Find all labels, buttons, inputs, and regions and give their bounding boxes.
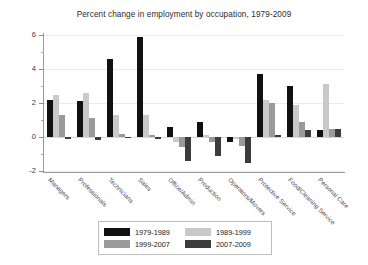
x-axis-tick-label: Professionals <box>77 176 109 208</box>
y-axis-tick-label: 2 <box>20 98 36 107</box>
bar <box>155 137 161 139</box>
y-axis-tick-label: -2 <box>20 166 36 175</box>
bar <box>83 93 89 137</box>
bar <box>293 105 299 137</box>
y-axis-tick-label: 0 <box>20 132 36 141</box>
bar <box>197 122 203 137</box>
legend-label: 1989-1999 <box>216 228 251 237</box>
bar <box>317 130 323 137</box>
legend-label: 1999-2007 <box>135 240 170 249</box>
bar <box>113 115 119 137</box>
bar <box>257 74 263 137</box>
y-axis-tick <box>39 171 44 172</box>
bar <box>65 137 71 139</box>
y-axis-tick <box>39 35 44 36</box>
chart-figure: Percent change in employment by occupati… <box>0 0 368 265</box>
bar <box>143 115 149 137</box>
legend-item-2007-2009: 2007-2009 <box>185 240 266 249</box>
legend-item-1979-1989: 1979-1989 <box>104 228 185 237</box>
legend-item-1999-2007: 1999-2007 <box>104 240 185 249</box>
bar-group <box>167 35 191 171</box>
bar-group <box>287 35 311 171</box>
bar <box>119 134 125 137</box>
bar <box>137 37 143 137</box>
bar-group <box>197 35 221 171</box>
bar <box>149 135 155 137</box>
y-axis-minor-tick <box>41 52 44 53</box>
bar <box>269 103 275 137</box>
y-axis-tick <box>39 69 44 70</box>
x-axis-tick-label: Office/Admin <box>167 176 197 206</box>
bar <box>167 127 173 137</box>
bar <box>227 137 233 142</box>
bar <box>173 137 179 142</box>
bar <box>209 137 215 142</box>
y-axis-tick <box>39 137 44 138</box>
legend-swatch <box>104 240 130 248</box>
bar <box>233 137 239 139</box>
x-axis-line <box>43 172 345 173</box>
bar <box>287 86 293 137</box>
bar <box>329 129 335 138</box>
bar <box>305 130 311 137</box>
legend-swatch <box>185 228 211 236</box>
bar <box>323 84 329 137</box>
bar <box>275 135 281 137</box>
y-axis-minor-tick <box>41 154 44 155</box>
bar <box>89 118 95 137</box>
legend-item-1989-1999: 1989-1999 <box>185 228 266 237</box>
bar <box>125 137 131 138</box>
y-axis-minor-tick <box>41 86 44 87</box>
bar-group <box>137 35 161 171</box>
bar <box>185 137 191 161</box>
bar-group <box>257 35 281 171</box>
bar <box>263 100 269 137</box>
bar <box>59 115 65 137</box>
bar-group <box>317 35 341 171</box>
x-axis-tick-label: Technicians <box>107 176 135 204</box>
y-axis-tick-label: 4 <box>20 64 36 73</box>
bar <box>53 95 59 138</box>
plot-area <box>44 35 344 171</box>
y-axis-minor-tick <box>41 120 44 121</box>
chart-title: Percent change in employment by occupati… <box>0 10 368 19</box>
bar-group <box>107 35 131 171</box>
gridline <box>44 171 344 172</box>
bar <box>203 135 209 137</box>
x-axis-tick-label: Production <box>197 176 223 202</box>
legend-label: 2007-2009 <box>216 240 251 249</box>
chart-legend: 1979-1989 1989-1999 1999-2007 2007-2009 <box>98 221 272 255</box>
legend-swatch <box>104 228 130 236</box>
legend-row: 1999-2007 2007-2009 <box>104 238 266 250</box>
bar <box>299 122 305 137</box>
legend-swatch <box>185 240 211 248</box>
bar <box>95 137 101 140</box>
bar <box>179 137 185 147</box>
bar-group <box>77 35 101 171</box>
bar <box>107 59 113 137</box>
bar-group <box>47 35 71 171</box>
bar <box>47 100 53 137</box>
bar-group <box>227 35 251 171</box>
legend-label: 1979-1989 <box>135 228 170 237</box>
x-axis-tick-label: Sales <box>137 176 153 192</box>
bar <box>215 137 221 156</box>
y-axis-tick <box>39 103 44 104</box>
bar <box>77 101 83 137</box>
bar <box>335 129 341 138</box>
y-axis-tick-label: 6 <box>20 30 36 39</box>
bar <box>239 137 245 146</box>
x-axis-tick-label: Personal Care <box>317 176 350 209</box>
bar <box>245 137 251 163</box>
x-axis-tick-label: Managers <box>47 176 72 201</box>
legend-row: 1979-1989 1989-1999 <box>104 226 266 238</box>
